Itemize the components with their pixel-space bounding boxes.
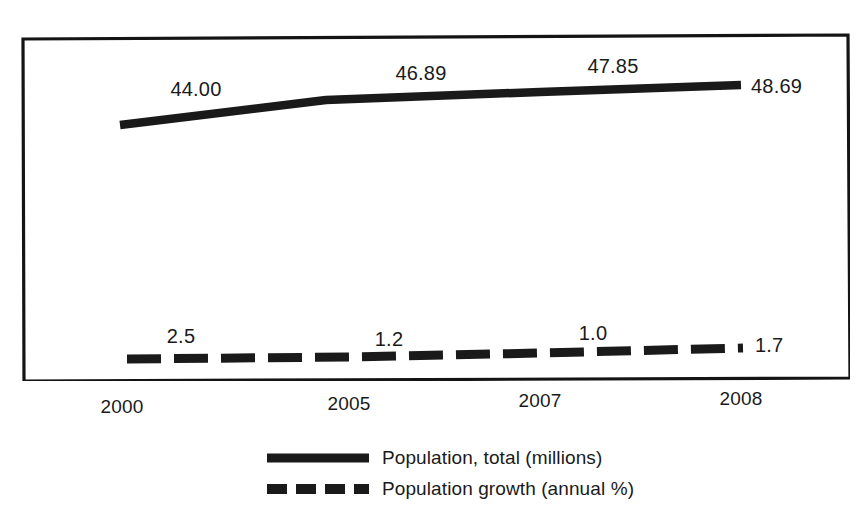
- data-label-growth-2007: 1.0: [579, 322, 607, 345]
- data-label-population-2000: 44.00: [170, 78, 221, 101]
- axis-tick-2007: 2007: [518, 390, 561, 412]
- legend-item-population-total: Population, total (millions): [265, 442, 685, 473]
- data-label-growth-2005: 1.2: [375, 328, 403, 351]
- axis-tick-2008: 2008: [719, 388, 762, 410]
- chart-figure: 44.00 46.89 47.85 48.69 2.5 1.2 1.0 1.7 …: [0, 0, 867, 530]
- legend-label-population-total: Population, total (millions): [382, 447, 602, 469]
- data-label-population-2007: 47.85: [587, 55, 638, 78]
- axis-tick-2000: 2000: [100, 396, 143, 418]
- data-label-population-2008: 48.69: [751, 75, 802, 98]
- axis-tick-2005: 2005: [327, 393, 370, 415]
- legend-label-population-growth: Population growth (annual %): [382, 478, 634, 500]
- data-label-growth-2008: 1.7: [755, 334, 783, 357]
- legend-swatch-dashed-line-icon: [265, 476, 371, 502]
- legend-swatch-solid-line-icon: [265, 445, 371, 471]
- chart-legend: Population, total (millions) Population …: [265, 442, 685, 504]
- data-label-population-2005: 46.89: [395, 62, 446, 85]
- plot-border: [21, 33, 850, 381]
- data-label-growth-2000: 2.5: [167, 325, 195, 348]
- legend-item-population-growth: Population growth (annual %): [265, 473, 685, 504]
